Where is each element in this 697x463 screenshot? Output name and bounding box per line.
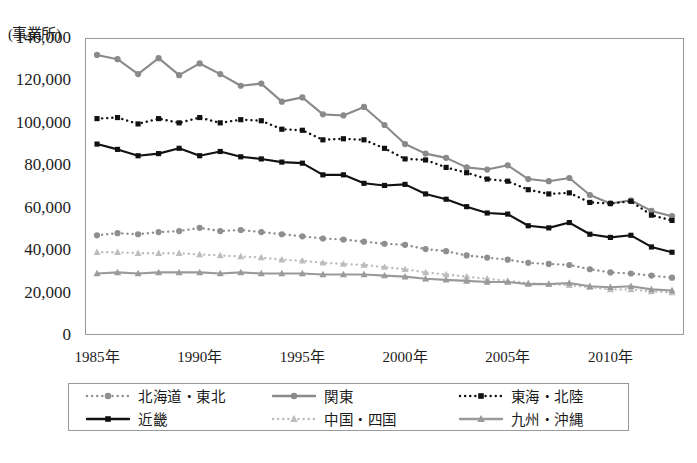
- data-point-circle: [258, 81, 264, 87]
- data-point-triangle: [291, 414, 299, 421]
- data-point-square: [478, 393, 484, 399]
- y-axis-tick: 20,000: [0, 283, 78, 303]
- legend-label: 中国・四国: [324, 408, 397, 429]
- data-point-circle: [566, 175, 572, 181]
- data-point-square: [300, 128, 305, 133]
- data-point-circle: [94, 52, 100, 58]
- series-関東: [94, 52, 675, 219]
- data-point-square: [197, 115, 202, 120]
- data-point-square: [177, 120, 182, 125]
- data-point-circle: [291, 392, 297, 398]
- data-point-square: [423, 157, 428, 162]
- data-point-square: [361, 181, 366, 186]
- data-point-circle: [587, 266, 593, 272]
- circle-solid-icon: [271, 389, 317, 403]
- data-point-square: [156, 151, 161, 156]
- data-point-circle: [279, 231, 285, 237]
- data-point-square: [279, 127, 284, 132]
- y-axis-tick: 140,000: [0, 28, 78, 48]
- legend-item-九州・沖縄[interactable]: 九州・沖縄: [442, 408, 628, 429]
- data-point-square: [218, 149, 223, 154]
- legend-item-北海道・東北[interactable]: 北海道・東北: [69, 385, 255, 406]
- data-point-circle: [546, 261, 552, 267]
- data-point-circle: [135, 71, 141, 77]
- data-point-circle: [607, 269, 613, 275]
- data-point-circle: [628, 270, 634, 276]
- data-point-circle: [279, 99, 285, 105]
- data-point-square: [259, 118, 264, 123]
- data-point-square: [320, 137, 325, 142]
- data-point-square: [546, 191, 551, 196]
- data-point-square: [669, 250, 674, 255]
- data-point-square: [218, 120, 223, 125]
- legend-label: 関東: [324, 385, 353, 406]
- triangle-solid-icon: [458, 412, 504, 426]
- legend-item-関東[interactable]: 関東: [255, 385, 441, 406]
- data-point-square: [197, 153, 202, 158]
- data-point-square: [94, 116, 99, 121]
- data-point-square: [485, 210, 490, 215]
- data-point-triangle: [155, 250, 162, 256]
- data-point-square: [279, 160, 284, 165]
- data-point-circle: [340, 112, 346, 118]
- data-point-circle: [217, 71, 223, 77]
- data-point-square: [135, 121, 140, 126]
- x-axis-tick: 2005年: [485, 345, 530, 366]
- data-point-circle: [361, 104, 367, 110]
- series-近畿: [94, 141, 674, 254]
- data-point-square: [587, 232, 592, 237]
- data-point-square: [115, 147, 120, 152]
- data-point-square: [259, 156, 264, 161]
- legend-grid: 北海道・東北関東東海・北陸近畿中国・四国九州・沖縄: [69, 384, 628, 430]
- data-point-circle: [176, 228, 182, 234]
- x-axis-tick: 2010年: [588, 345, 633, 366]
- data-point-circle: [443, 248, 449, 254]
- data-point-square: [402, 156, 407, 161]
- data-point-square: [464, 170, 469, 175]
- data-point-circle: [402, 242, 408, 248]
- data-point-square: [567, 190, 572, 195]
- data-point-circle: [525, 176, 531, 182]
- legend-item-近畿[interactable]: 近畿: [69, 408, 255, 429]
- data-point-square: [669, 218, 674, 223]
- series-line: [97, 55, 672, 216]
- data-point-circle: [381, 122, 387, 128]
- data-point-square: [402, 182, 407, 187]
- x-axis-tick: 1995年: [280, 345, 325, 366]
- legend-label: 九州・沖縄: [511, 408, 584, 429]
- y-axis-tick: 80,000: [0, 155, 78, 175]
- data-point-circle: [299, 94, 305, 100]
- data-point-square: [649, 244, 654, 249]
- data-point-square: [526, 187, 531, 192]
- data-point-square: [608, 201, 613, 206]
- legend-item-東海・北陸[interactable]: 東海・北陸: [442, 385, 628, 406]
- y-axis-tick: 100,000: [0, 113, 78, 133]
- data-point-triangle: [176, 250, 183, 256]
- x-axis-tick: 2000年: [383, 345, 428, 366]
- data-point-square: [608, 235, 613, 240]
- data-point-square: [485, 176, 490, 181]
- data-point-circle: [320, 111, 326, 117]
- data-point-circle: [669, 275, 675, 281]
- data-point-square: [238, 117, 243, 122]
- data-point-square: [567, 220, 572, 225]
- y-axis-tick: 120,000: [0, 70, 78, 90]
- series-東海・北陸: [94, 115, 674, 223]
- series-line: [97, 144, 672, 252]
- data-point-triangle: [114, 249, 121, 255]
- legend-item-中国・四国[interactable]: 中国・四国: [255, 408, 441, 429]
- data-point-triangle: [135, 250, 142, 256]
- data-point-square: [361, 137, 366, 142]
- data-point-circle: [217, 228, 223, 234]
- data-point-circle: [402, 141, 408, 147]
- legend-label: 東海・北陸: [511, 385, 584, 406]
- legend-label: 近畿: [138, 408, 167, 429]
- data-point-circle: [464, 164, 470, 170]
- data-point-circle: [525, 260, 531, 266]
- data-point-square: [341, 172, 346, 177]
- x-axis-tick: 1990年: [177, 345, 222, 366]
- data-point-square: [526, 223, 531, 228]
- data-point-square: [300, 161, 305, 166]
- data-point-circle: [320, 235, 326, 241]
- data-point-circle: [197, 225, 203, 231]
